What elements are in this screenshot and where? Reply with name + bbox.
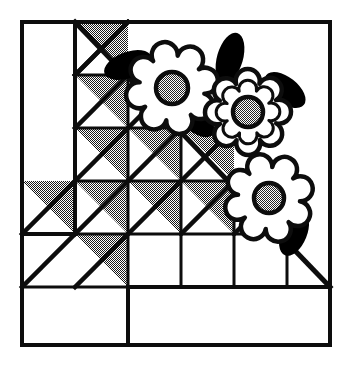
flower-upper-right-center — [233, 97, 263, 127]
quilt-block-drawing — [0, 0, 355, 373]
flower-upper-right — [205, 69, 291, 155]
flower-upper-left-center — [156, 72, 188, 104]
flower-lower-right-center — [254, 183, 284, 213]
flower-upper-left — [126, 42, 218, 134]
quilt-illustration-canvas — [0, 0, 355, 373]
